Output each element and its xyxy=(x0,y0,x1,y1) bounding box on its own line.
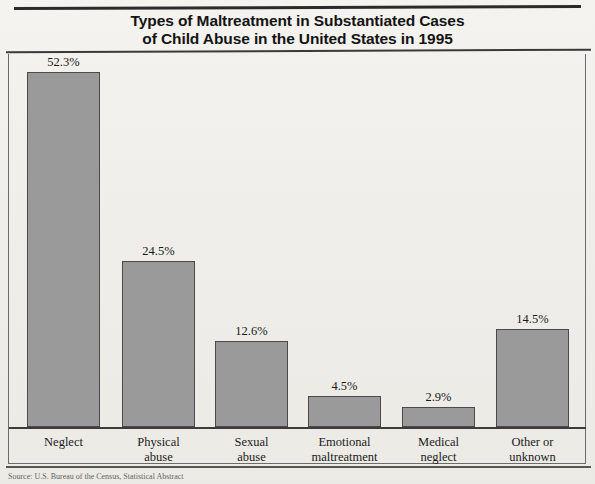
bar-medical-neglect[interactable] xyxy=(402,407,475,427)
bar-category-label: Neglect xyxy=(9,435,118,450)
bar-category-label-line-1: Emotional xyxy=(290,435,399,450)
bar-value-label: 14.5% xyxy=(484,312,581,327)
bar-physical-abuse[interactable] xyxy=(122,261,195,427)
bar-emotional-maltreatment[interactable] xyxy=(308,396,381,427)
bar-category-label-line-2: neglect xyxy=(384,450,493,465)
bar-series: 52.3%Neglect24.5%Physicalabuse12.6%Sexua… xyxy=(0,0,595,484)
bar-category-label: Medicalneglect xyxy=(384,435,493,465)
bar-value-label: 24.5% xyxy=(110,244,207,259)
bar-value-label: 4.5% xyxy=(296,379,393,394)
bar-category-label: Other orunknown xyxy=(478,435,587,465)
bar-value-label: 52.3% xyxy=(15,55,112,70)
bar-other-or-unknown[interactable] xyxy=(496,329,569,427)
source-note: Source: U.S. Bureau of the Census, Stati… xyxy=(8,472,588,481)
bar-category-label: Emotionalmaltreatment xyxy=(290,435,399,465)
bar-category-label-line-1: Neglect xyxy=(9,435,118,450)
bar-category-label-line-1: Medical xyxy=(384,435,493,450)
bar-value-label: 2.9% xyxy=(390,390,487,405)
bar-value-label: 12.6% xyxy=(203,324,300,339)
bar-category-label-line-2: unknown xyxy=(478,450,587,465)
bar-sexual-abuse[interactable] xyxy=(215,341,288,427)
bar-category-label-line-1: Other or xyxy=(478,435,587,450)
bar-category-label-line-2: maltreatment xyxy=(290,450,399,465)
footer-rule xyxy=(6,466,591,468)
bar-neglect[interactable] xyxy=(27,72,100,427)
chart-page: Types of Maltreatment in Substantiated C… xyxy=(0,0,595,484)
